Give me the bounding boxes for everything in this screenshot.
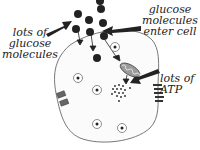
glucose-molecule [86,28,94,36]
glucose-molecule [74,10,82,18]
atp-molecule [122,85,124,87]
atp-molecule [122,92,124,94]
atp-molecule [118,92,120,94]
atp-molecule [111,93,113,95]
atp-molecule [114,91,116,93]
atp-molecule [114,85,116,87]
label-line: ATP [160,84,200,95]
glucose-molecule [72,25,80,33]
cell-membrane [55,30,159,142]
organelle [93,86,102,95]
label-lots-of-atp: lots of ATP [160,73,200,95]
atp-molecule [124,89,126,91]
atp-molecule [118,100,120,102]
atp-molecule [120,88,122,90]
atp-molecule [112,88,114,90]
atp-molecule [116,95,118,97]
atp-molecule [116,88,118,90]
glucose-molecule [85,16,93,24]
label-lots-of-glucose: lots of glucose molecules [2,27,58,60]
glucose-molecule [96,0,104,5]
atp-molecule [124,95,126,97]
organelle [118,124,127,133]
organelle [93,120,102,129]
atp-molecule [120,96,122,98]
atp-molecule [129,87,131,89]
glucose-molecule [93,54,101,62]
membrane-channel [155,96,164,98]
glucose-molecule [99,19,107,27]
glucose-molecule [97,5,105,13]
organelle [111,43,120,52]
label-line: enter cell [140,26,200,37]
glucose-molecule [100,32,108,40]
organelle [74,74,83,83]
atp-molecule [118,84,120,86]
label-glucose-enter-cell: glucose molecules enter cell [140,4,200,37]
label-line: molecules [2,49,58,60]
membrane-channel [155,100,163,102]
